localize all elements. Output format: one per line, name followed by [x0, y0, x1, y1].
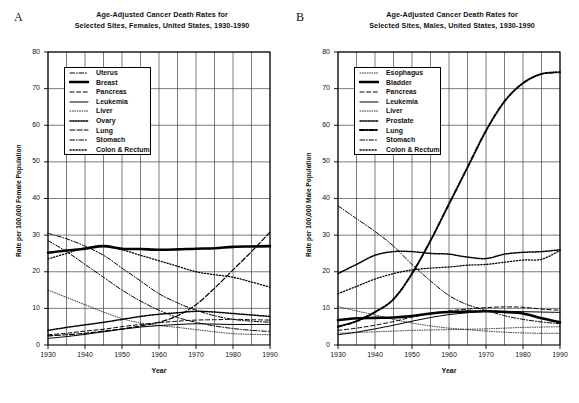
legend-label: Stomach — [383, 135, 440, 145]
legend-label: Leukemia — [93, 97, 150, 107]
legend-swatch — [65, 68, 93, 78]
x-axis-tick-label: 1990 — [255, 351, 285, 358]
y-axis-tick-label: 40 — [24, 194, 40, 201]
legend-swatch — [355, 78, 383, 88]
legend-swatch — [355, 106, 383, 116]
y-axis-label: Rate per 100,000 Male Population — [305, 152, 312, 256]
legend-label: Colon & Rectum — [93, 145, 150, 155]
legend-item: Uterus — [65, 68, 150, 78]
y-axis-tick-label: 40 — [314, 194, 330, 201]
legend-swatch — [355, 135, 383, 145]
legend-label: Pancreas — [93, 87, 150, 97]
panel-a: A Age-Adjusted Cancer Death Rates for Se… — [0, 0, 289, 403]
x-axis-tick-label: 1990 — [545, 351, 575, 358]
x-axis-tick-label: 1980 — [508, 351, 538, 358]
legend-swatch — [65, 135, 93, 145]
x-axis-tick-label: 1970 — [181, 351, 211, 358]
legend-label: Esophagus — [383, 68, 440, 78]
legend-label: Liver — [383, 106, 440, 116]
legend-swatch — [355, 126, 383, 136]
y-axis-tick-label: 10 — [24, 304, 40, 311]
legend-swatch — [355, 145, 383, 155]
legend-label: Colon & Rectum — [383, 145, 440, 155]
legend-item: Liver — [65, 106, 150, 116]
legend-label: Prostate — [383, 116, 440, 126]
y-axis-tick-label: 20 — [24, 267, 40, 274]
y-axis-tick-label: 20 — [314, 267, 330, 274]
legend-swatch — [65, 145, 93, 155]
y-axis-tick-label: 0 — [24, 341, 40, 348]
x-axis-tick-label: 1960 — [434, 351, 464, 358]
y-axis-tick-label: 70 — [24, 84, 40, 91]
legend-swatch — [355, 97, 383, 107]
x-axis-tick-label: 1950 — [107, 351, 137, 358]
x-axis-tick-label: 1960 — [144, 351, 174, 358]
legend-item: Pancreas — [65, 87, 150, 97]
y-axis-tick-label: 30 — [24, 231, 40, 238]
y-axis-label: Rate per 100,000 Female Population — [15, 144, 22, 257]
legend-swatch — [65, 126, 93, 136]
legend-swatch — [355, 87, 383, 97]
y-axis-tick-label: 30 — [314, 231, 330, 238]
legend-label: Pancreas — [383, 87, 440, 97]
y-axis-tick-label: 80 — [24, 48, 40, 55]
legend-item: Stomach — [65, 135, 150, 145]
legend-item: Ovary — [65, 116, 150, 126]
legend-label: Lung — [383, 126, 440, 136]
legend-swatch — [65, 106, 93, 116]
legend-item: Leukemia — [355, 97, 440, 107]
legend: UterusBreastPancreasLeukemiaLiverOvaryLu… — [64, 67, 151, 155]
y-axis-tick-label: 60 — [314, 121, 330, 128]
legend-swatch — [65, 116, 93, 126]
legend-item: Breast — [65, 78, 150, 88]
legend-item: Stomach — [355, 135, 440, 145]
x-axis-tick-label: 1980 — [218, 351, 248, 358]
legend-item: Lung — [65, 126, 150, 136]
legend-item: Prostate — [355, 116, 440, 126]
legend-swatch — [65, 87, 93, 97]
x-axis-label: Year — [338, 367, 560, 374]
legend-item: Lung — [355, 126, 440, 136]
legend-swatch — [65, 97, 93, 107]
legend-label: Lung — [93, 126, 150, 136]
legend-item: Liver — [355, 106, 440, 116]
y-axis-tick-label: 10 — [314, 304, 330, 311]
legend-swatch — [355, 68, 383, 78]
y-axis-tick-label: 70 — [314, 84, 330, 91]
legend: EsophagusBladderPancreasLeukemiaLiverPro… — [354, 67, 441, 155]
legend-swatch — [65, 78, 93, 88]
x-axis-tick-label: 1950 — [397, 351, 427, 358]
legend-label: Bladder — [383, 78, 440, 88]
x-axis-tick-label: 1970 — [471, 351, 501, 358]
legend-item: Pancreas — [355, 87, 440, 97]
x-axis-label: Year — [48, 367, 270, 374]
legend-label: Ovary — [93, 116, 150, 126]
y-axis-tick-label: 50 — [24, 157, 40, 164]
legend-label: Liver — [93, 106, 150, 116]
y-axis-tick-label: 60 — [24, 121, 40, 128]
y-axis-tick-label: 0 — [314, 341, 330, 348]
panel-b: B Age-Adjusted Cancer Death Rates for Se… — [290, 0, 579, 403]
legend-item: Colon & Rectum — [65, 145, 150, 155]
legend-label: Stomach — [93, 135, 150, 145]
x-axis-tick-label: 1940 — [360, 351, 390, 358]
figure-root: A Age-Adjusted Cancer Death Rates for Se… — [0, 0, 579, 403]
legend-swatch — [355, 116, 383, 126]
legend-item: Bladder — [355, 78, 440, 88]
x-axis-tick-label: 1940 — [70, 351, 100, 358]
plot-canvas — [0, 0, 289, 403]
x-axis-tick-label: 1930 — [33, 351, 63, 358]
y-axis-tick-label: 80 — [314, 48, 330, 55]
legend-label: Uterus — [93, 68, 150, 78]
legend-item: Leukemia — [65, 97, 150, 107]
legend-item: Esophagus — [355, 68, 440, 78]
plot-canvas — [290, 0, 579, 403]
legend-label: Breast — [93, 78, 150, 88]
x-axis-tick-label: 1930 — [323, 351, 353, 358]
y-axis-tick-label: 50 — [314, 157, 330, 164]
legend-label: Leukemia — [383, 97, 440, 107]
legend-item: Colon & Rectum — [355, 145, 440, 155]
